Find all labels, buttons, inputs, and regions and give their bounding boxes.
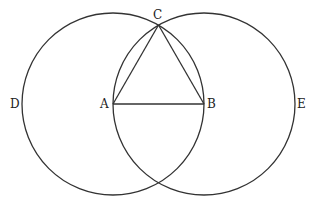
diagram-canvas: C A B D E	[0, 0, 314, 206]
segment-bc	[159, 25, 205, 104]
label-c: C	[153, 8, 162, 22]
label-b: B	[207, 97, 216, 111]
label-d: D	[10, 97, 20, 111]
segment-ac	[113, 25, 159, 104]
label-a: A	[99, 97, 109, 111]
label-e: E	[297, 97, 306, 111]
